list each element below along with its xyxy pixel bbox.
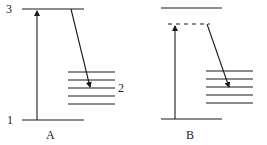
emission-arrow [207,24,229,87]
panel-b: B [161,8,253,142]
level-label-2: 2 [118,81,124,95]
panel-a-caption: A [46,128,55,142]
panel-b-caption: B [186,128,194,142]
panel-a: 3 1 2 A [6,2,124,142]
level-2-band [68,72,115,104]
relaxation-arrow [71,9,90,87]
lower-level-band [206,71,253,103]
energy-level-diagram: 3 1 2 A B [0,0,267,145]
level-label-3: 3 [6,2,12,16]
level-label-1: 1 [7,113,13,127]
